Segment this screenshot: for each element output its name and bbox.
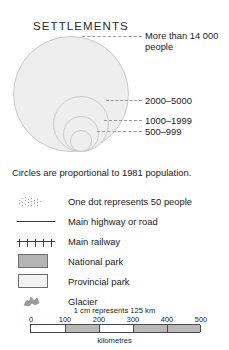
- circle-label-1000-1999: 1000–1999: [145, 115, 192, 126]
- railway-line-icon: [17, 232, 61, 252]
- circle-label-500-999: 500–999: [145, 126, 182, 137]
- scale-statement: 1 cm represents 125 km: [0, 306, 229, 315]
- legend-row-provincial-park: Provincial park: [0, 272, 229, 292]
- legend-entries-list: One dot represents 50 people Main highwa…: [0, 192, 229, 312]
- highway-line-icon: [17, 212, 61, 232]
- legend-caption: Circles are proportional to 1981 populat…: [12, 167, 191, 178]
- legend-label-railway: Main railway: [68, 236, 120, 247]
- circle-label-more-than-14000: More than 14 000 people: [145, 30, 219, 52]
- scale-bar: 0100200300400500: [30, 324, 200, 333]
- legend-row-railway: Main railway: [0, 232, 229, 252]
- circle-label-line-2: people: [145, 41, 219, 52]
- provincial-park-swatch-icon: [17, 272, 61, 292]
- scale-tick-label: 100: [59, 315, 71, 324]
- leader-line-500-999: [97, 131, 142, 132]
- leader-line-more-than-14000: [82, 36, 142, 37]
- scale-tick-label: 500: [195, 315, 207, 324]
- dot-cluster-icon: [17, 192, 61, 212]
- proportional-circles-group: [0, 30, 140, 158]
- leader-line-1000-1999: [104, 120, 142, 121]
- legend-label-national-park: National park: [68, 256, 123, 267]
- legend-label-highway: Main highway or road: [68, 216, 158, 227]
- legend-row-national-park: National park: [0, 252, 229, 272]
- national-park-swatch-icon: [17, 252, 61, 272]
- scale-section: 1 cm represents 125 km 0100200300400500 …: [0, 306, 229, 315]
- legend-row-one-dot: One dot represents 50 people: [0, 192, 229, 212]
- legend-row-highway: Main highway or road: [0, 212, 229, 232]
- scale-tick-label: 300: [127, 315, 139, 324]
- map-legend-panel: SETTLEMENTS More than 14 000 people 2000…: [0, 0, 229, 350]
- scale-tick-label: 200: [93, 315, 105, 324]
- legend-label-one-dot: One dot represents 50 people: [68, 196, 192, 207]
- leader-line-2000-5000: [106, 100, 142, 101]
- circle-label-2000-5000: 2000–5000: [145, 95, 192, 106]
- scale-tick-label: 400: [161, 315, 173, 324]
- scale-units-label: kilometres: [0, 336, 229, 345]
- legend-label-provincial-park: Provincial park: [68, 276, 129, 287]
- circle-label-line-1: More than 14 000: [145, 30, 219, 41]
- scale-tick-label: 0: [29, 315, 33, 324]
- circle-500-999: [70, 130, 92, 152]
